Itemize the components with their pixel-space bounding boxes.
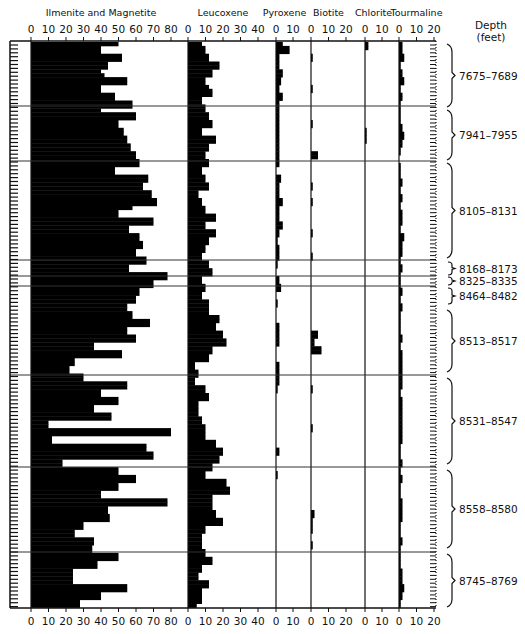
bar	[188, 346, 213, 350]
bar	[31, 206, 133, 210]
bar	[188, 592, 202, 596]
bar	[31, 494, 101, 498]
bar	[31, 448, 147, 452]
bar	[188, 54, 209, 58]
depth-bracket	[447, 110, 455, 160]
bar	[188, 221, 206, 225]
bar	[276, 73, 283, 77]
bar	[188, 588, 202, 592]
bar	[276, 50, 290, 54]
bar	[31, 389, 101, 393]
bar	[31, 350, 122, 354]
panel-title: Ilmenite and Magnetite	[46, 7, 157, 18]
bar	[399, 588, 404, 592]
bar	[31, 124, 119, 128]
bar	[311, 346, 322, 350]
bar	[188, 541, 202, 545]
bar	[31, 175, 148, 179]
bar	[276, 221, 283, 225]
bar	[188, 385, 206, 389]
panel-title: Chlorite	[355, 7, 392, 18]
bar	[31, 393, 101, 397]
depth-interval-label: 8513–8517	[459, 335, 518, 347]
bar	[399, 237, 404, 241]
bar	[188, 303, 209, 307]
bar	[188, 459, 220, 463]
bar	[311, 350, 322, 354]
bar	[31, 475, 136, 479]
bar	[31, 221, 154, 225]
bar	[31, 549, 92, 553]
bar	[188, 241, 209, 245]
bar	[31, 502, 168, 506]
depth-bracket	[447, 554, 455, 607]
bar	[276, 69, 283, 73]
bar	[31, 120, 119, 124]
tick-label: 80	[164, 23, 177, 35]
bar	[188, 526, 206, 530]
bar	[188, 475, 206, 479]
bar	[188, 260, 209, 264]
bar	[31, 459, 63, 463]
bar	[188, 311, 209, 315]
bar	[188, 58, 209, 62]
bar	[188, 108, 206, 112]
bar	[188, 545, 202, 549]
bar	[31, 116, 136, 120]
tick-label: 10	[410, 615, 423, 627]
bar	[188, 179, 206, 183]
bar	[31, 346, 94, 350]
tick-label: 10	[322, 615, 335, 627]
bar	[188, 389, 206, 393]
bar	[31, 58, 122, 62]
bar	[399, 77, 404, 81]
bar	[188, 93, 213, 97]
bar	[31, 182, 143, 186]
bar	[188, 292, 202, 296]
bar	[188, 155, 206, 159]
bar	[188, 175, 206, 179]
bar	[31, 491, 101, 495]
tick-label: 0	[362, 615, 369, 627]
tick-label: 10	[410, 23, 423, 35]
depth-bracket	[447, 310, 455, 372]
bar	[188, 561, 213, 565]
bar	[31, 128, 124, 132]
tick-label: 60	[129, 615, 142, 627]
top-axis: 0102030405060708001020304001001020010010…	[28, 23, 441, 41]
bar	[31, 432, 171, 436]
bar	[188, 323, 216, 327]
bar	[276, 77, 281, 81]
bar	[276, 179, 281, 183]
bar	[31, 315, 133, 319]
tick-label: 10	[375, 23, 388, 35]
bar	[31, 424, 49, 428]
tick-label: 0	[308, 615, 315, 627]
tick-label: 0	[362, 23, 369, 35]
depth-interval-label: 7675–7689	[459, 70, 518, 82]
bar	[188, 163, 209, 167]
bar	[188, 214, 216, 218]
bar	[31, 46, 101, 50]
bar	[31, 420, 49, 424]
bar	[188, 377, 195, 381]
bar	[188, 288, 206, 292]
bar	[188, 229, 216, 233]
bar	[188, 225, 206, 229]
bar	[188, 522, 223, 526]
tick-label: 0	[28, 615, 35, 627]
bar	[31, 81, 127, 85]
bar	[188, 533, 202, 537]
bar	[188, 401, 199, 405]
panel-title: Biotite	[313, 7, 344, 18]
tick-label: 30	[77, 23, 90, 35]
bar	[188, 572, 199, 576]
bar	[31, 471, 119, 475]
tick-label: 0	[185, 615, 192, 627]
bar	[188, 576, 199, 580]
depth-bracket	[447, 163, 455, 258]
bar	[188, 101, 202, 105]
bar	[188, 502, 213, 506]
tick-label: 20	[59, 23, 72, 35]
bar	[31, 97, 115, 101]
